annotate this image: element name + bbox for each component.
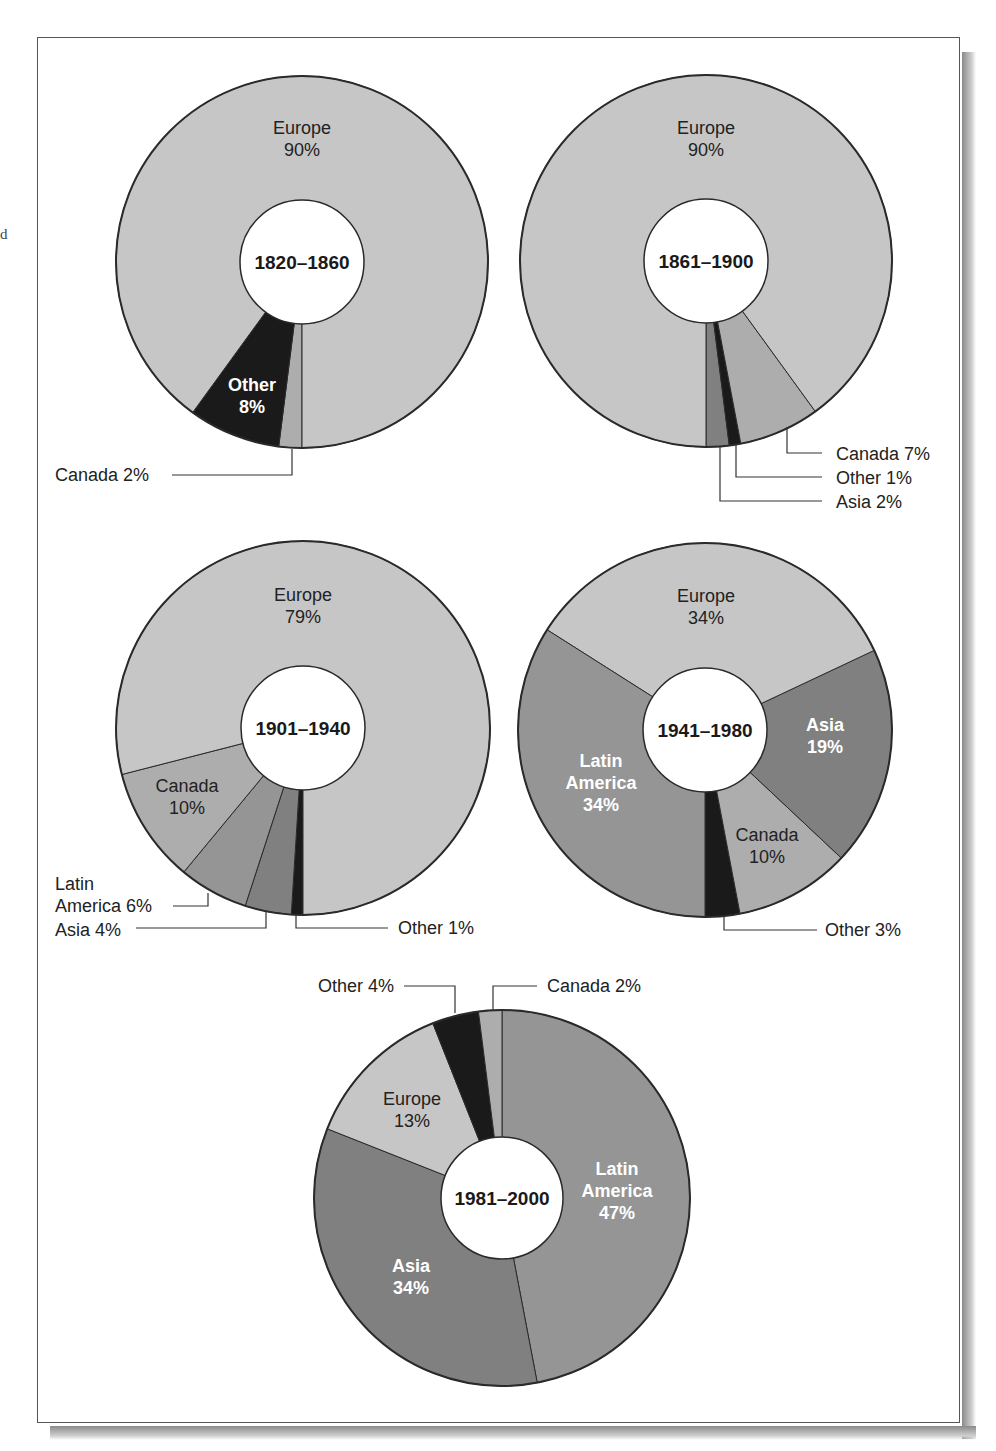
donut-chart-1861-1900: 1861–1900Europe90%Canada 7%Other 1%Asia … (520, 75, 930, 512)
leader-line-latin-america (173, 893, 208, 906)
label-other: Other 1% (398, 918, 474, 938)
period-title: 1941–1980 (657, 720, 752, 741)
leader-line-asia (720, 446, 822, 501)
leader-line-other (736, 444, 822, 477)
leader-line-other (296, 915, 388, 928)
label-other: Other 3% (825, 920, 901, 940)
label-other: Other 1% (836, 468, 912, 488)
donut-chart-1820-1860: 1820–1860Europe90%Other8%Canada 2% (55, 76, 488, 485)
leader-line-canada (493, 986, 537, 1011)
period-title: 1901–1940 (255, 718, 350, 739)
period-title: 1981–2000 (454, 1188, 549, 1209)
leader-line-other (404, 986, 455, 1013)
leader-line-canada (172, 449, 292, 475)
period-title: 1861–1900 (658, 251, 753, 272)
leader-line-asia (136, 911, 266, 928)
leader-line-other (724, 916, 817, 930)
label-latin-america: LatinAmerica 6% (55, 874, 152, 916)
label-other: Other 4% (318, 976, 394, 996)
label-asia: Asia 2% (836, 492, 902, 512)
donut-charts-canvas: 1820–1860Europe90%Other8%Canada 2% 1861–… (0, 0, 996, 1451)
donut-chart-1981-2000: 1981–2000LatinAmerica47%Asia34%Europe13%… (314, 976, 690, 1386)
label-canada: Canada 2% (547, 976, 641, 996)
label-canada: Canada 7% (836, 444, 930, 464)
label-canada: Canada 2% (55, 465, 149, 485)
label-asia: Asia 4% (55, 920, 121, 940)
period-title: 1820–1860 (254, 252, 349, 273)
donut-chart-1941-1980: 1941–1980Europe34%Asia19%LatinAmerica34%… (518, 543, 901, 940)
leader-line-canada (787, 427, 822, 453)
donut-chart-1901-1940: 1901–1940Europe79%Canada10%LatinAmerica … (55, 541, 490, 940)
